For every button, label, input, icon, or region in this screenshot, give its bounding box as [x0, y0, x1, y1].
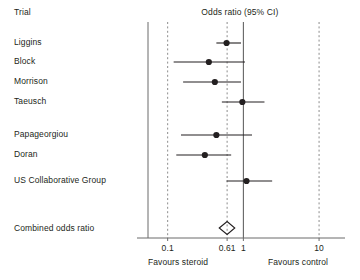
- forest-plot-figure: Trial Odds ratio (95% CI) LigginsBlockMo…: [0, 0, 360, 280]
- point-estimate-marker: [212, 79, 218, 85]
- point-estimate-marker: [213, 132, 219, 138]
- axis-tick-label: 10: [314, 243, 324, 253]
- forest-plot-canvas: [0, 0, 360, 280]
- axis-tick-label: 0.1: [162, 243, 174, 253]
- favours-control-label: Favours control: [268, 257, 328, 267]
- combined-diamond-group: [219, 222, 235, 235]
- point-estimate-marker: [239, 99, 245, 105]
- axis-tick-label: 1: [241, 243, 246, 253]
- favours-steroid-label: Favours steroid: [148, 257, 208, 267]
- plot-frame: [137, 22, 345, 238]
- point-estimate-marker: [223, 40, 229, 46]
- confidence-intervals-group: [174, 43, 273, 181]
- gridlines-group: [168, 22, 319, 238]
- axis-tick-label: 0.61: [219, 243, 236, 253]
- point-estimate-marker: [202, 152, 208, 158]
- point-estimate-marker: [243, 178, 249, 184]
- combined-odds-ratio-diamond: [219, 222, 235, 235]
- point-estimate-marker: [206, 59, 212, 65]
